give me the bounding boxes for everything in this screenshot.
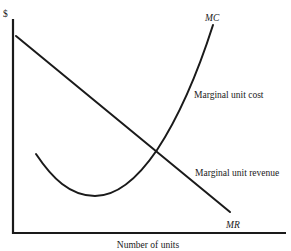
- mr-description-label: Marginal unit revenue: [195, 168, 279, 178]
- y-axis-label: $: [3, 9, 8, 19]
- x-axis-label: Number of units: [117, 240, 180, 250]
- mc-description-label: Marginal unit cost: [194, 90, 264, 100]
- mc-label: MC: [204, 13, 220, 23]
- mr-label: MR: [225, 220, 240, 230]
- mc-curve: [36, 25, 213, 196]
- marginal-cost-revenue-chart: $ MC Marginal unit cost Marginal unit re…: [0, 0, 291, 251]
